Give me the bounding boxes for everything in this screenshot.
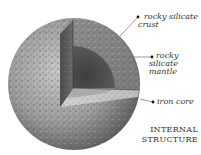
cutaway — [60, 20, 139, 107]
label-crust: rocky silicate crust — [144, 13, 198, 29]
diagram-title: INTERNAL STRUCTURE — [142, 125, 198, 145]
label-iron-core: iron core — [157, 98, 194, 106]
label-mantle: rocky silicate mantle — [156, 52, 179, 76]
